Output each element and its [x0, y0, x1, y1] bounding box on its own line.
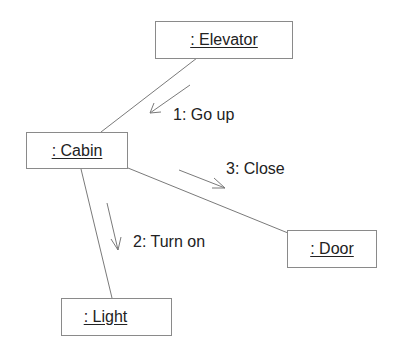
object-door[interactable]: : Door — [287, 230, 377, 268]
object-elevator-label: : Elevator — [190, 31, 258, 49]
object-door-label: : Door — [310, 240, 354, 258]
object-light[interactable]: : Light — [61, 298, 172, 336]
message-arrow-2-icon — [107, 203, 121, 250]
object-elevator[interactable]: : Elevator — [155, 21, 293, 59]
object-cabin-label: : Cabin — [52, 142, 103, 160]
object-cabin[interactable]: : Cabin — [26, 132, 128, 169]
link-cabin-light — [81, 169, 112, 298]
message-label-3: 3: Close — [226, 160, 285, 178]
message-arrow-3-icon — [179, 170, 225, 188]
object-light-label: : Light — [84, 308, 128, 326]
message-label-1: 1: Go up — [173, 106, 234, 124]
message-label-2: 2: Turn on — [133, 233, 205, 251]
